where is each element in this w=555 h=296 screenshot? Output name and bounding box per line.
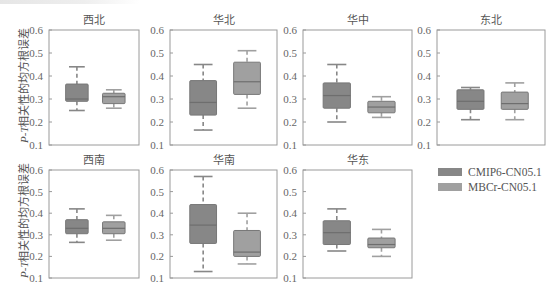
y-tick-label: 0.6 bbox=[283, 24, 297, 36]
y-tick-label: 0.2 bbox=[29, 250, 43, 262]
panel-title: 华中 bbox=[347, 13, 369, 27]
y-tick-label: 0.3 bbox=[283, 93, 297, 105]
y-tick-label: 0.3 bbox=[29, 229, 43, 241]
y-tick-label: 0.3 bbox=[150, 93, 164, 105]
y-tick-label: 0.2 bbox=[417, 116, 431, 128]
y-tick-label: 0.6 bbox=[283, 164, 297, 176]
y-tick-label: 0.1 bbox=[150, 272, 164, 284]
box-mbcr bbox=[234, 62, 261, 94]
y-tick-label: 0.4 bbox=[29, 207, 43, 219]
y-tick-label: 0.5 bbox=[29, 186, 43, 198]
y-tick-label: 0.3 bbox=[417, 93, 431, 105]
y-axis-label-row-1: P-T相关性的均方根误差 bbox=[15, 28, 31, 144]
y-tick-label: 0.5 bbox=[29, 47, 43, 59]
legend-label-mbcr: MBCr-CN05.1 bbox=[468, 181, 537, 193]
y-tick-label: 0.2 bbox=[29, 116, 43, 128]
box-mbcr bbox=[501, 92, 528, 109]
panel-title: 西北 bbox=[83, 14, 105, 27]
box-mbcr bbox=[103, 93, 126, 103]
legend-entry-mbcr: MBCr-CN05.1 bbox=[438, 180, 542, 194]
y-tick-label: 0.1 bbox=[29, 272, 43, 284]
chart-legend: CMIP6-CN05.1 MBCr-CN05.1 bbox=[438, 165, 542, 195]
y-tick-label: 0.4 bbox=[283, 70, 297, 82]
y-tick-label: 0.6 bbox=[150, 24, 164, 36]
y-axis-label-text: 相关性的均方根误差 bbox=[18, 163, 30, 262]
box-plot-grid: 西北0.10.20.30.40.50.6华北0.10.20.30.40.50.6… bbox=[0, 0, 555, 296]
y-tick-label: 0.5 bbox=[417, 47, 431, 59]
y-tick-label: 0.2 bbox=[150, 116, 164, 128]
y-tick-label: 0.1 bbox=[283, 272, 297, 284]
y-axis-label-italic: P-T bbox=[18, 127, 30, 144]
legend-label-cmip6: CMIP6-CN05.1 bbox=[468, 166, 542, 178]
panel-frame bbox=[437, 30, 545, 145]
panel-frame bbox=[170, 170, 277, 278]
panel-title: 华南 bbox=[213, 153, 235, 167]
panel-title: 西南 bbox=[83, 154, 105, 167]
box-cmip6 bbox=[66, 220, 89, 234]
y-tick-label: 0.5 bbox=[283, 47, 297, 59]
y-tick-label: 0.1 bbox=[29, 139, 43, 151]
y-tick-label: 0.6 bbox=[150, 164, 164, 176]
y-tick-label: 0.1 bbox=[417, 139, 431, 151]
legend-entry-cmip6: CMIP6-CN05.1 bbox=[438, 165, 542, 179]
y-tick-label: 0.2 bbox=[283, 116, 297, 128]
panel-title: 东北 bbox=[480, 14, 502, 27]
box-cmip6 bbox=[190, 81, 217, 116]
box-cmip6 bbox=[190, 205, 217, 244]
y-tick-label: 0.1 bbox=[283, 139, 297, 151]
y-tick-label: 0.6 bbox=[29, 24, 43, 36]
y-tick-label: 0.6 bbox=[29, 164, 43, 176]
y-tick-label: 0.3 bbox=[283, 229, 297, 241]
panel-frame bbox=[303, 30, 412, 145]
y-tick-label: 0.3 bbox=[29, 93, 43, 105]
y-axis-label-row-2: P-T相关性的均方根误差 bbox=[15, 163, 31, 279]
figure: 西北0.10.20.30.40.50.6华北0.10.20.30.40.50.6… bbox=[0, 0, 555, 296]
y-tick-label: 0.5 bbox=[150, 186, 164, 198]
panel-frame bbox=[303, 170, 412, 278]
y-axis-label-text: 相关性的均方根误差 bbox=[18, 28, 30, 127]
panel-frame bbox=[49, 30, 139, 145]
y-tick-label: 0.3 bbox=[150, 229, 164, 241]
panel-frame bbox=[170, 30, 277, 145]
cropped-caption-fragment bbox=[0, 0, 140, 4]
y-tick-label: 0.6 bbox=[417, 24, 431, 36]
panel-title: 华北 bbox=[213, 13, 235, 27]
y-axis-label-italic: P-T bbox=[18, 262, 30, 279]
y-tick-label: 0.2 bbox=[150, 250, 164, 262]
panel-title: 华东 bbox=[347, 153, 369, 167]
box-cmip6 bbox=[457, 90, 484, 110]
legend-swatch-mbcr bbox=[438, 183, 462, 191]
y-tick-label: 0.2 bbox=[283, 250, 297, 262]
y-tick-label: 0.4 bbox=[283, 207, 297, 219]
y-tick-label: 0.5 bbox=[283, 186, 297, 198]
y-tick-label: 0.4 bbox=[150, 207, 164, 219]
y-tick-label: 0.4 bbox=[150, 70, 164, 82]
y-tick-label: 0.4 bbox=[29, 70, 43, 82]
y-tick-label: 0.5 bbox=[150, 47, 164, 59]
legend-swatch-cmip6 bbox=[438, 168, 462, 176]
y-tick-label: 0.4 bbox=[417, 70, 431, 82]
y-tick-label: 0.1 bbox=[150, 139, 164, 151]
box-mbcr bbox=[368, 238, 395, 248]
